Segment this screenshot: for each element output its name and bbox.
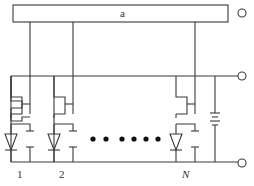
battery-icon [210,76,220,162]
terminal-positive [238,72,246,80]
cell-label-2: 2 [59,169,65,180]
ellipsis-dots [90,136,160,141]
circuit-diagram [0,0,254,186]
block-label: a [120,8,125,19]
terminal-negative [238,159,246,167]
cell-1 [11,76,54,162]
diode-icon-n [170,134,182,150]
cell-label-n: N [182,169,189,180]
cell-label-1: 1 [17,169,23,180]
terminal-control [238,9,246,17]
